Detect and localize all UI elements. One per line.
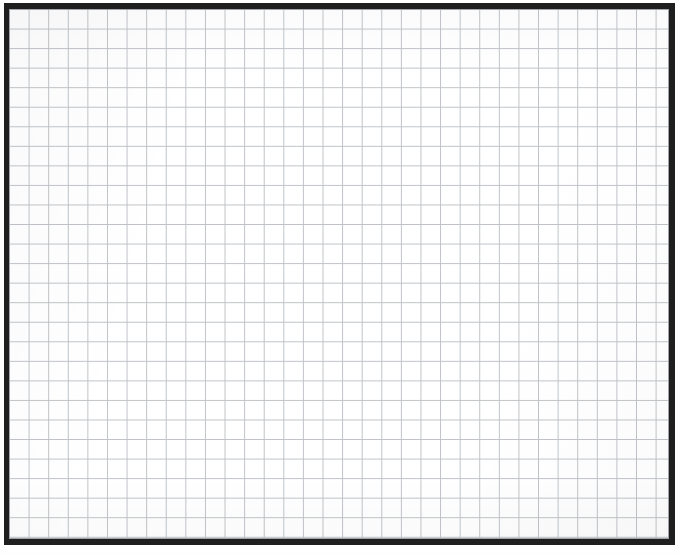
grid-field <box>9 9 669 539</box>
grid-border-frame <box>4 3 675 545</box>
grid-paper-sheet <box>0 0 681 554</box>
